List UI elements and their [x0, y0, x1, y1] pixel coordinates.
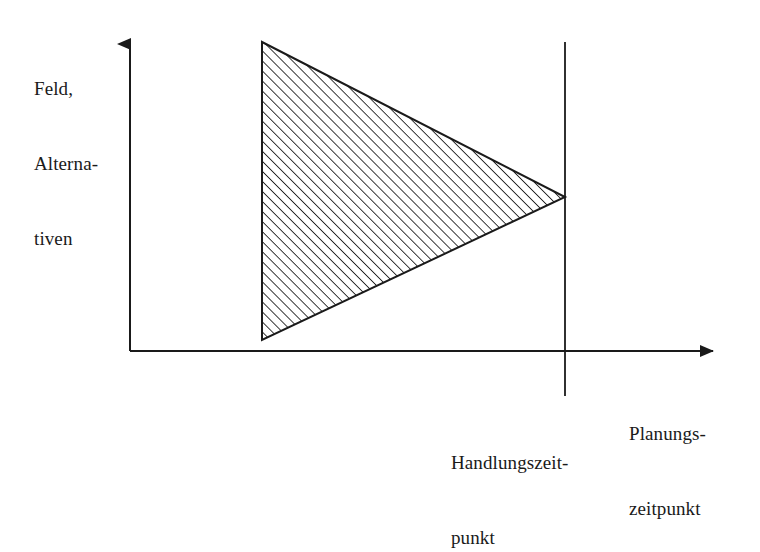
y-axis-label-line-1: Feld, — [34, 76, 98, 101]
planning-funnel-triangle — [262, 42, 565, 340]
event-line-label-line-1: Handlungszeit- — [451, 450, 568, 475]
y-axis-label-line-2: Alterna- — [34, 151, 98, 176]
event-line-label-line-2: punkt — [451, 525, 568, 550]
y-axis-label: Feld, Alterna- tiven — [34, 26, 98, 301]
x-axis-label-line-1: Planungs- — [629, 421, 706, 446]
x-axis-label: Planungs- zeitpunkt — [629, 371, 706, 552]
x-axis-label-line-2: zeitpunkt — [629, 496, 706, 521]
y-axis-label-line-3: tiven — [34, 226, 98, 251]
event-line-label: Handlungszeit- punkt — [451, 400, 568, 552]
